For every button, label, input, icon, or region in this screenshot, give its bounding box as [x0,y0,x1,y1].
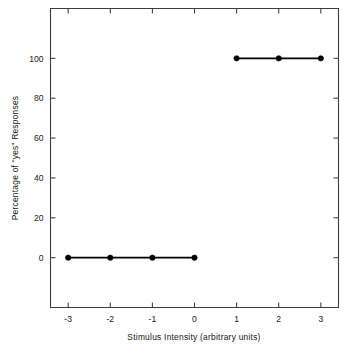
x-tick-label: 0 [192,314,197,324]
data-point-marker [150,255,155,260]
x-axis-title: Stimulus Intensity (arbitrary units) [127,332,260,342]
data-point-marker [276,56,281,61]
y-tick-label: 60 [34,133,44,143]
x-tick-label: 2 [276,314,281,324]
psychometric-step-chart: -3-2-10123 020406080100 Stimulus Intensi… [0,0,353,355]
y-tick-label: 0 [39,253,44,263]
y-axis-title: Percentage of “yes” Responses [10,96,20,221]
x-tick-label: 3 [318,314,323,324]
data-point-marker [108,255,113,260]
figure-container: -3-2-10123 020406080100 Stimulus Intensi… [0,0,353,355]
x-tick-label: 1 [234,314,239,324]
y-tick-label: 20 [34,213,44,223]
y-tick-label: 80 [34,93,44,103]
data-point-marker [65,255,70,260]
data-point-marker [318,56,323,61]
x-tick-label: -1 [149,314,157,324]
data-point-marker [234,56,239,61]
y-tick-label: 100 [29,54,44,64]
y-tick-label: 40 [34,173,44,183]
x-tick-label: -3 [64,314,72,324]
data-point-marker [192,255,197,260]
x-tick-label: -2 [106,314,114,324]
